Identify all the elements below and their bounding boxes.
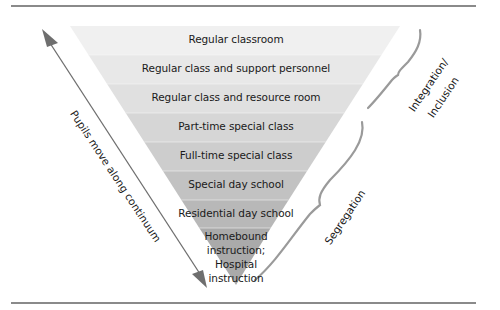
band-label-residential-day-school: Residential day school	[0, 207, 472, 220]
band-label-part-time-special: Part-time special class	[0, 120, 472, 133]
band-label-special-day-school: Special day school	[0, 178, 472, 191]
homebound-line-3: Hospital	[0, 257, 472, 271]
band-label-regular-classroom: Regular classroom	[0, 33, 472, 46]
band-label-homebound-hospital: Homebound instruction; Hospital instruct…	[0, 229, 472, 285]
band-label-resource-room: Regular class and resource room	[0, 91, 472, 104]
homebound-line-4: instruction	[0, 271, 472, 285]
band-label-full-time-special: Full-time special class	[0, 149, 472, 162]
band-label-support-personnel: Regular class and support personnel	[0, 62, 472, 75]
homebound-line-1: Homebound	[0, 229, 472, 243]
homebound-line-2: instruction;	[0, 243, 472, 257]
